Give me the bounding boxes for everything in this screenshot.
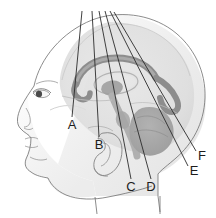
label-A: A	[68, 117, 77, 132]
iris	[36, 91, 42, 98]
label-D: D	[146, 179, 155, 194]
label-C: C	[126, 179, 135, 194]
brow-line	[36, 81, 58, 84]
label-F: F	[198, 148, 206, 163]
label-B: B	[95, 137, 104, 152]
eye	[33, 89, 51, 98]
anatomy-illustration: A B C D E F	[0, 0, 216, 218]
anatomy-figure: A B C D E F	[0, 0, 216, 218]
label-E: E	[190, 163, 199, 178]
neck-outline	[95, 196, 160, 214]
